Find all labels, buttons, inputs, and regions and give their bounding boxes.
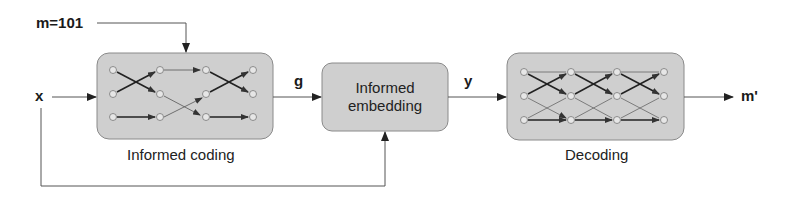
decoding-block bbox=[507, 53, 684, 140]
output-m-label: m' bbox=[741, 87, 758, 104]
watermarked-y-label: y bbox=[464, 72, 472, 89]
informed-coding-block bbox=[97, 53, 273, 139]
informed-coding-caption: Informed coding bbox=[127, 146, 235, 163]
informed-embedding-label: Informed embedding bbox=[322, 79, 448, 115]
message-label: m=101 bbox=[36, 14, 83, 31]
codeword-g-label: g bbox=[294, 72, 303, 89]
decoding-caption: Decoding bbox=[565, 146, 628, 163]
input-x-label: x bbox=[35, 87, 43, 104]
informed-embedding-line1: Informed bbox=[322, 79, 448, 97]
informed-embedding-line2: embedding bbox=[322, 97, 448, 115]
